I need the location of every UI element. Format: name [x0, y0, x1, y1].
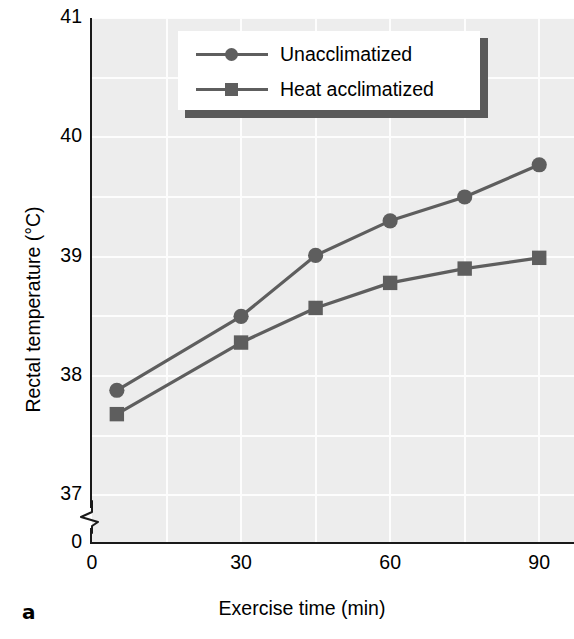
data-point-0-1	[233, 309, 248, 324]
data-point-1-4	[457, 261, 471, 275]
x-axis-line	[90, 542, 574, 544]
legend-marker-square-icon	[196, 78, 268, 100]
y-tick-label-39: 39	[36, 244, 82, 267]
y-tick-label-37: 37	[36, 482, 82, 505]
y-tick-label-38: 38	[36, 363, 82, 386]
data-point-1-0	[110, 407, 124, 421]
x-axis-title: Exercise time (min)	[92, 597, 512, 620]
legend-item-1: Heat acclimatized	[178, 72, 434, 106]
x-tick-label-0: 0	[62, 551, 122, 574]
figure-panel-a: Rectal temperature (°C) 37383940410 0306…	[0, 0, 574, 639]
series-line-0	[117, 165, 539, 391]
data-point-0-2	[308, 248, 323, 263]
data-point-1-1	[234, 335, 248, 349]
legend-shadow-right	[480, 38, 488, 117]
x-tick-label-90: 90	[509, 551, 569, 574]
y-axis-line	[90, 18, 92, 508]
data-point-1-5	[532, 251, 546, 265]
panel-letter: a	[22, 600, 36, 624]
x-tick-label-30: 30	[211, 551, 271, 574]
data-point-0-0	[109, 383, 124, 398]
data-point-1-2	[308, 301, 322, 315]
legend-label-1: Heat acclimatized	[280, 78, 434, 101]
y-axis-break-icon	[78, 500, 106, 534]
legend-marker-circle-icon	[196, 43, 268, 65]
data-point-0-4	[457, 189, 472, 204]
y-axis-title: Rectal temperature (°C)	[22, 160, 45, 460]
data-point-1-3	[383, 276, 397, 290]
y-tick-label-41: 41	[36, 5, 82, 28]
data-point-0-3	[383, 213, 398, 228]
legend-label-0: Unacclimatized	[280, 43, 412, 66]
x-tick-label-60: 60	[360, 551, 420, 574]
legend: Unacclimatized Heat acclimatized	[178, 31, 480, 110]
legend-shadow-bottom	[185, 110, 488, 118]
y-tick-label-origin: 0	[36, 530, 82, 553]
y-tick-label-40: 40	[36, 124, 82, 147]
legend-item-0: Unacclimatized	[178, 37, 412, 71]
series-line-1	[117, 258, 539, 414]
data-point-0-5	[532, 157, 547, 172]
